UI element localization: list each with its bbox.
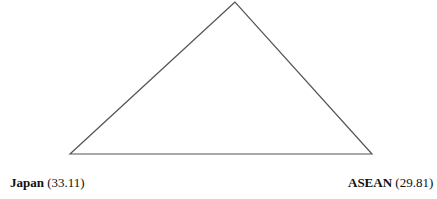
label-asean-value: (29.81) bbox=[395, 175, 433, 190]
label-japan-value: (33.11) bbox=[47, 175, 84, 190]
label-asean-name: ASEAN bbox=[348, 175, 392, 190]
triangle-shape bbox=[70, 2, 372, 154]
label-japan-name: Japan bbox=[10, 175, 44, 190]
triangle-diagram bbox=[0, 0, 437, 199]
label-japan: Japan (33.11) bbox=[10, 176, 85, 189]
label-asean: ASEAN (29.81) bbox=[348, 176, 433, 189]
